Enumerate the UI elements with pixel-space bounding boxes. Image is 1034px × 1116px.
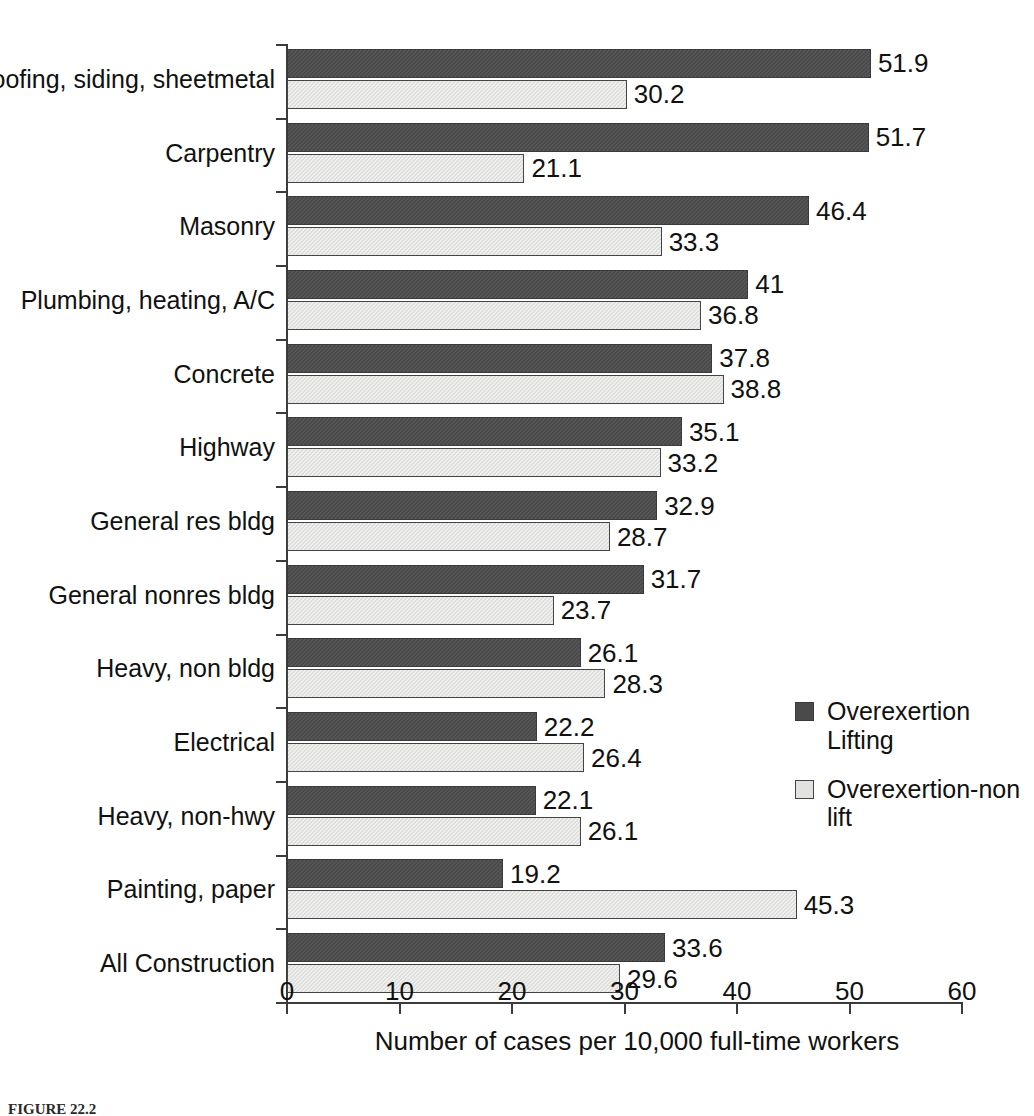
legend-swatch-light-icon — [795, 780, 814, 799]
bar-value-label: 21.1 — [531, 155, 582, 181]
y-axis-category-label: Heavy, non-hwy — [0, 802, 275, 831]
bar-value-label: 28.3 — [612, 671, 663, 697]
bar-light — [287, 227, 662, 256]
bar-value-label: 41 — [755, 271, 784, 297]
bar-light — [287, 448, 661, 477]
bar-light — [287, 375, 724, 404]
y-axis-tick — [276, 44, 287, 46]
y-axis-tick — [276, 707, 287, 709]
y-axis-tick — [276, 560, 287, 562]
legend-item-overexertion-non-lift: Overexertion-non lift — [795, 775, 1030, 833]
y-axis-tick — [276, 191, 287, 193]
y-axis-tick — [276, 118, 287, 120]
y-axis-category-label: Carpentry — [0, 139, 275, 168]
bar-dark — [287, 859, 503, 888]
x-axis-title-text: Number of cases per 10,000 full-time wor… — [375, 1026, 900, 1056]
bar-value-label: 35.1 — [689, 419, 740, 445]
x-axis-tick-label: 50 — [835, 976, 864, 1007]
y-axis-category-label: Plumbing, heating, A/C — [0, 286, 275, 315]
bar-light — [287, 669, 605, 698]
y-axis-tick — [276, 412, 287, 414]
y-axis-category-label: Painting, paper — [0, 875, 275, 904]
bar-light — [287, 743, 584, 772]
bar-dark — [287, 786, 536, 815]
bar-value-label: 33.3 — [669, 229, 720, 255]
bar-value-label: 23.7 — [561, 597, 612, 623]
bar-value-label: 32.9 — [664, 493, 715, 519]
legend-label: Overexertion-non lift — [827, 775, 1027, 833]
chart-legend: Overexertion Lifting Overexertion-non li… — [795, 697, 1030, 852]
y-axis-category-label: General res bldg — [0, 507, 275, 536]
bar-dark — [287, 491, 657, 520]
y-axis-category-label: Roofing, siding, sheetmetal — [0, 65, 275, 94]
bar-value-label: 38.8 — [731, 376, 782, 402]
bar-dark — [287, 123, 869, 152]
bar-value-label: 31.7 — [651, 566, 702, 592]
bar-light — [287, 817, 581, 846]
y-axis-tick — [276, 265, 287, 267]
x-axis-tick-label: 30 — [610, 976, 639, 1007]
bar-light — [287, 80, 627, 109]
bar-value-label: 33.6 — [672, 935, 723, 961]
legend-label: Overexertion Lifting — [827, 697, 1027, 755]
y-axis-category-label: General nonres bldg — [0, 581, 275, 610]
bar-dark — [287, 196, 809, 225]
chart-plot-area: 51.930.251.721.146.433.34136.837.838.835… — [287, 44, 962, 1002]
y-axis-tick — [276, 634, 287, 636]
figure-number: FIGURE 22.2 — [8, 1101, 96, 1116]
x-axis-title: Number of cases per 10,000 full-time wor… — [0, 1026, 1034, 1057]
bar-dark — [287, 270, 748, 299]
x-axis-tick-label: 10 — [385, 976, 414, 1007]
bar-value-label: 51.7 — [876, 124, 927, 150]
y-axis-category-label: Electrical — [0, 728, 275, 757]
bar-light — [287, 522, 610, 551]
bar-value-label: 26.4 — [591, 745, 642, 771]
bar-light — [287, 301, 701, 330]
bar-light — [287, 964, 620, 993]
bar-light — [287, 890, 797, 919]
x-axis-tick-label: 0 — [280, 976, 294, 1007]
legend-item-overexertion-lifting: Overexertion Lifting — [795, 697, 1030, 755]
y-axis-tick — [276, 339, 287, 341]
y-axis-tick — [276, 781, 287, 783]
bar-value-label: 22.1 — [543, 787, 594, 813]
legend-swatch-dark-icon — [795, 702, 814, 721]
bar-value-label: 22.2 — [544, 714, 595, 740]
bar-value-label: 36.8 — [708, 302, 759, 328]
bar-value-label: 33.2 — [668, 450, 719, 476]
y-axis-tick — [276, 855, 287, 857]
bar-dark — [287, 49, 871, 78]
x-axis-tick-label: 60 — [948, 976, 977, 1007]
y-axis-category-label: All Construction — [0, 949, 275, 978]
y-axis-tick — [276, 486, 287, 488]
bar-value-label: 28.7 — [617, 524, 668, 550]
bar-dark — [287, 933, 665, 962]
x-axis-tick-label: 20 — [498, 976, 527, 1007]
y-axis-category-label: Heavy, non bldg — [0, 654, 275, 683]
bar-dark — [287, 712, 537, 741]
bar-value-label: 46.4 — [816, 198, 867, 224]
bar-dark — [287, 638, 581, 667]
bar-dark — [287, 344, 712, 373]
bar-value-label: 19.2 — [510, 861, 561, 887]
y-axis-category-label: Highway — [0, 433, 275, 462]
y-axis-tick — [276, 928, 287, 930]
bar-dark — [287, 565, 644, 594]
bar-value-label: 26.1 — [588, 640, 639, 666]
bar-value-label: 37.8 — [719, 345, 770, 371]
bar-value-label: 51.9 — [878, 50, 929, 76]
bar-light — [287, 596, 554, 625]
bar-value-label: 26.1 — [588, 818, 639, 844]
figure-container: 51.930.251.721.146.433.34136.837.838.835… — [0, 0, 1034, 1116]
bar-light — [287, 154, 524, 183]
bar-value-label: 45.3 — [804, 892, 855, 918]
y-axis-category-label: Concrete — [0, 360, 275, 389]
bar-dark — [287, 417, 682, 446]
figure-caption: FIGURE 22.2 — [8, 1100, 1028, 1116]
x-axis-tick-label: 40 — [723, 976, 752, 1007]
bar-value-label: 30.2 — [634, 81, 685, 107]
y-axis-category-label: Masonry — [0, 212, 275, 241]
